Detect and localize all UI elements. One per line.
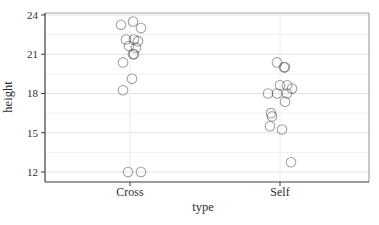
x-category-label: Self: [270, 185, 289, 199]
y-tick-label: 12: [27, 166, 38, 178]
y-axis-title: height: [1, 81, 15, 113]
x-category-label: Cross: [116, 185, 144, 199]
y-tick-label: 18: [27, 87, 39, 99]
plot-background: [45, 13, 369, 182]
y-tick-label: 21: [27, 48, 38, 60]
y-tick-label: 15: [27, 127, 39, 139]
strip-plot-figure: 1215182124CrossSelftypeheight: [0, 0, 379, 225]
strip-plot-canvas: 1215182124CrossSelftypeheight: [0, 0, 379, 225]
x-axis-title: type: [192, 200, 214, 214]
y-tick-label: 24: [27, 9, 39, 21]
